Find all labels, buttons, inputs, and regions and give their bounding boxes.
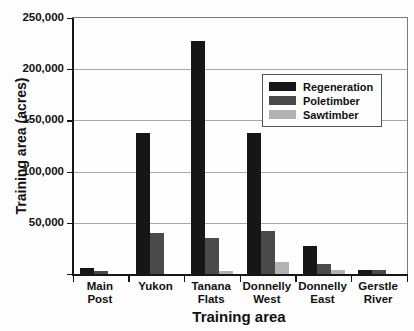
x-axis-category-labels: Main PostYukonTanana FlatsDonnelly WestD… <box>72 280 406 308</box>
bar-regeneration-donnelly-east <box>303 246 317 275</box>
bar-poletimber-donnelly-east <box>317 264 331 275</box>
legend: Regeneration Poletimber Sawtimber <box>262 74 382 127</box>
x-category-label-gerstle-river: Gerstle River <box>338 280 414 306</box>
x-axis-tick <box>351 275 352 282</box>
y-axis-tick <box>67 69 73 70</box>
bar-poletimber-yukon <box>150 233 164 275</box>
legend-item-regeneration: Regeneration <box>269 80 373 93</box>
x-axis-tick <box>128 275 129 282</box>
x-axis-tick <box>295 275 296 282</box>
bar-poletimber-donnelly-west <box>261 231 275 275</box>
y-axis-tick-labels: 250,000200,000150,000100,00050,000 <box>0 17 66 274</box>
x-axis-tick <box>407 275 408 282</box>
y-axis-tick <box>67 172 73 173</box>
legend-label-poletimber: Poletimber <box>303 95 360 107</box>
gridline <box>73 69 407 70</box>
x-axis-tick <box>240 275 241 282</box>
y-axis-tick <box>67 18 73 19</box>
x-axis-tick <box>184 275 185 282</box>
bar-regeneration-tanana-flats <box>191 41 205 275</box>
poletimber-swatch <box>269 96 296 105</box>
legend-label-regeneration: Regeneration <box>303 81 373 93</box>
y-axis-line <box>72 18 74 275</box>
y-axis-tick <box>67 120 73 121</box>
plot-area: Regeneration Poletimber Sawtimber <box>72 17 408 276</box>
sawtimber-swatch <box>269 110 296 119</box>
bar-regeneration-yukon <box>136 133 150 275</box>
x-axis-tick <box>73 275 74 282</box>
x-axis-title: Training area <box>72 308 406 325</box>
y-tick-label: 100,000 <box>0 165 64 177</box>
y-tick-label: 250,000 <box>0 11 64 23</box>
y-axis-tick <box>67 223 73 224</box>
y-tick-label: 50,000 <box>0 216 64 228</box>
legend-item-sawtimber: Sawtimber <box>269 108 373 121</box>
y-tick-label: 150,000 <box>0 113 64 125</box>
gridline <box>73 172 407 173</box>
y-tick-label: 200,000 <box>0 62 64 74</box>
bar-poletimber-tanana-flats <box>205 238 219 275</box>
legend-label-sawtimber: Sawtimber <box>303 109 359 121</box>
bar-sawtimber-donnelly-west <box>275 262 289 275</box>
regeneration-swatch <box>269 82 296 91</box>
legend-item-poletimber: Poletimber <box>269 94 373 107</box>
gridline <box>73 223 407 224</box>
bar-chart-figure: Training area (acres) 250,000200,000150,… <box>0 0 414 331</box>
bar-regeneration-donnelly-west <box>247 133 261 275</box>
